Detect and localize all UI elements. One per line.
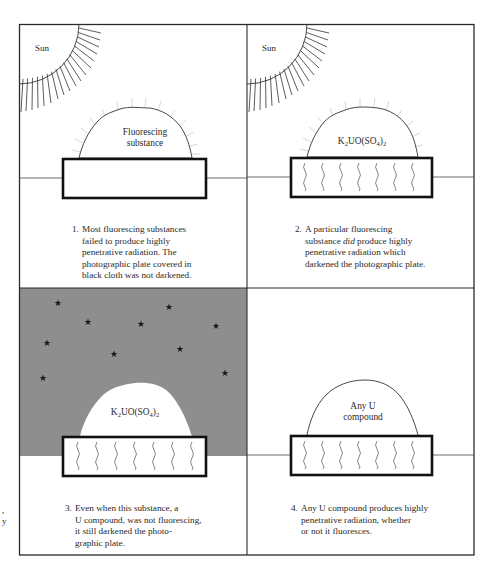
caption-4: 4. Any U compound produces highly penetr… — [301, 503, 428, 538]
caption-line: U compound, was not fluorescing, — [75, 515, 202, 527]
becquerel-experiment-figure: Sun Sun Fluorescing substance K2UO(SO4)2… — [0, 0, 493, 565]
substance-label-line: Fluorescing — [105, 127, 185, 138]
caption-line: penetrative radiation, whether — [301, 515, 428, 527]
caption-line: darkened the photographic plate. — [305, 259, 425, 271]
caption-line: Most fluorescing substances — [82, 224, 191, 236]
caption-line: Any U compound produces highly — [301, 503, 428, 515]
substance-label: Fluorescing substance — [105, 127, 185, 149]
formula-label: K2UO(SO4)2 — [95, 407, 175, 420]
caption-3: 3. Even when this substance, a U compoun… — [75, 503, 202, 549]
caption-line: or not it fluoresces. — [301, 526, 428, 538]
photographic-plate-2 — [291, 158, 432, 197]
substance-label: Any U compound — [323, 401, 403, 423]
substance-label-line: Any U — [323, 401, 403, 412]
figure-drawing — [0, 0, 493, 565]
caption-line: black cloth was not darkened. — [82, 270, 191, 282]
formula-label: K2UO(SO4)2 — [322, 136, 402, 149]
caption-line: graphic plate. — [75, 538, 202, 550]
sun-icon — [19, 24, 101, 112]
caption-number: 1. — [72, 224, 79, 236]
caption-line: A particular fluorescing — [305, 224, 425, 236]
caption-number: 2. — [295, 224, 302, 236]
caption-1: 1. Most fluorescing substances failed to… — [82, 224, 191, 282]
substance-label-line: substance — [105, 138, 185, 149]
margin-fragment: , — [2, 505, 4, 515]
photographic-plate-1 — [63, 159, 206, 198]
caption-line: it still darkened the photo- — [75, 526, 202, 538]
caption-line: substance did produce highly — [305, 236, 425, 248]
caption-line: Even when this substance, a — [75, 503, 202, 515]
caption-line: photographic plate covered in — [82, 259, 191, 271]
caption-number: 3. — [65, 503, 72, 515]
sun-icon — [247, 24, 329, 112]
margin-fragment: y — [2, 516, 7, 526]
sun-label: Sun — [262, 43, 276, 53]
caption-line: penetrative radiation which — [305, 247, 425, 259]
caption-line: failed to produce highly — [82, 236, 191, 248]
caption-number: 4. — [291, 503, 298, 515]
sun-label: Sun — [35, 43, 49, 53]
caption-2: 2. A particular fluorescing substance di… — [305, 224, 425, 270]
photographic-plate-4 — [291, 436, 432, 475]
substance-label-line: compound — [323, 412, 403, 423]
caption-line: penetrative radiation. The — [82, 247, 191, 259]
